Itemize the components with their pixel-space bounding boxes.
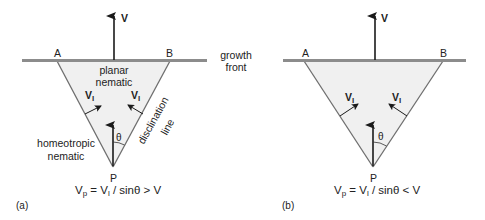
- apex-label-a: P: [110, 172, 117, 184]
- exterior-label-line1: homeotropic: [35, 137, 97, 149]
- side-velocity-label-a-left: Vl: [85, 89, 94, 105]
- corner-label-a-right: B: [166, 47, 173, 59]
- equation-a: Vp = Vl / sinθ > V: [75, 184, 161, 200]
- equation-b: Vp = Vl / sinθ < V: [334, 184, 420, 200]
- theta-label-a: θ: [116, 132, 122, 144]
- caption-a: (a): [16, 200, 28, 212]
- growth-front-label-line1: growth: [216, 49, 256, 61]
- corner-label-b-left: A: [302, 47, 309, 59]
- side-velocity-label-b-right: Vl: [392, 91, 401, 107]
- corner-label-b-right: B: [440, 47, 447, 59]
- velocity-label-b: V: [381, 12, 388, 24]
- side-velocity-label-b-left: Vl: [345, 91, 354, 107]
- apex-label-b: P: [370, 172, 377, 184]
- velocity-label-a: V: [121, 12, 128, 24]
- theta-label-b: θ: [378, 131, 384, 143]
- exterior-label-line2: nematic: [40, 150, 92, 162]
- caption-b: (b): [282, 200, 294, 212]
- interior-label-line1: planar: [97, 64, 131, 76]
- corner-label-a-left: A: [54, 47, 61, 59]
- growth-front-label-line2: front: [216, 61, 256, 73]
- interior-label-line2: nematic: [93, 76, 135, 88]
- panel-b: [283, 16, 466, 167]
- side-velocity-label-a-right: Vl: [131, 89, 140, 105]
